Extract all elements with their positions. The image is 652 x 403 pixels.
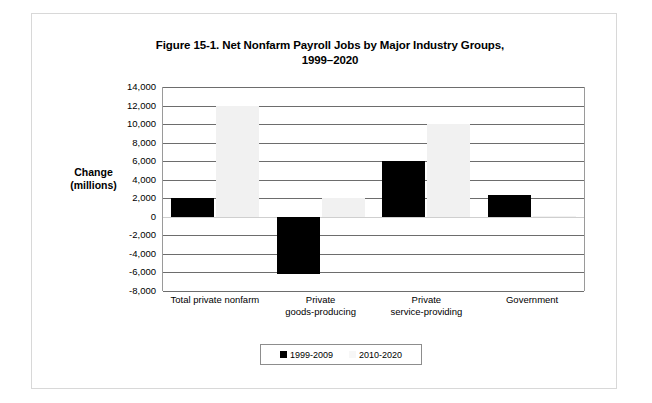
gridline [163, 198, 584, 199]
y-axis-tick-label: -2,000 [104, 230, 156, 240]
x-axis-category-label: Privateservice-providing [374, 294, 480, 318]
x-axis-category-label-line: Total private nonfarm [162, 294, 268, 306]
y-axis-tick-label: 4,000 [104, 175, 156, 185]
x-axis-category-label-line: service-providing [374, 306, 480, 318]
y-axis-tick-label: 6,000 [104, 156, 156, 166]
y-axis-tick-label: 10,000 [104, 119, 156, 129]
x-axis-category-label-line: Government [479, 294, 585, 306]
gridline [163, 124, 584, 125]
chart-legend: 1999-20092010-2020 [260, 344, 422, 365]
x-axis-category-label: Privategoods-producing [268, 294, 374, 318]
gridline [163, 272, 584, 273]
y-axis-tick-label: 12,000 [104, 101, 156, 111]
gridline [163, 143, 584, 144]
y-axis-tick-labels: 14,00012,00010,0008,0006,0004,0002,0000-… [104, 87, 156, 291]
y-axis-tick-label: 8,000 [104, 138, 156, 148]
y-axis-tick-label: -4,000 [104, 249, 156, 259]
gridline [163, 87, 584, 88]
legend-label: 1999-2009 [290, 350, 333, 360]
gridline [163, 291, 584, 292]
x-axis-category-label-line: goods-producing [268, 306, 374, 318]
legend-swatch-icon [349, 351, 356, 358]
x-axis-category-label-line: Private [268, 294, 374, 306]
plot-area [162, 87, 585, 291]
legend-item: 1999-2009 [280, 350, 333, 360]
gridline [163, 161, 584, 162]
y-axis-tick-label: 0 [104, 212, 156, 222]
chart-title-line-2: 1999–2020 [100, 53, 560, 68]
gridline [163, 106, 584, 107]
figure-root: Figure 15-1. Net Nonfarm Payroll Jobs by… [0, 0, 652, 403]
x-axis-category-label: Total private nonfarm [162, 294, 268, 306]
x-axis-category-label: Government [479, 294, 585, 306]
gridline [163, 180, 584, 181]
chart-title: Figure 15-1. Net Nonfarm Payroll Jobs by… [100, 38, 560, 68]
zero-gridline [163, 217, 584, 218]
legend-label: 2010-2020 [359, 350, 402, 360]
y-axis-tick-label: -8,000 [104, 286, 156, 296]
legend-swatch-icon [280, 351, 287, 358]
y-axis-tick-label: -6,000 [104, 267, 156, 277]
gridline [163, 254, 584, 255]
x-axis-category-label-line: Private [374, 294, 480, 306]
y-axis-tick-label: 2,000 [104, 193, 156, 203]
y-axis-tick-label: 14,000 [104, 82, 156, 92]
chart-title-line-1: Figure 15-1. Net Nonfarm Payroll Jobs by… [156, 39, 504, 51]
x-axis-category-labels: Total private nonfarmPrivategoods-produc… [162, 294, 585, 330]
gridline [163, 235, 584, 236]
legend-item: 2010-2020 [349, 350, 402, 360]
